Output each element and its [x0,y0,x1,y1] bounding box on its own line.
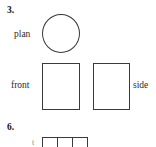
side-view-rectangle-shape [93,63,130,110]
front-view-rectangle-shape [42,63,80,110]
question-3-number: 3. [7,6,14,16]
plan-view-circle-shape [42,14,80,53]
front-view-label: front [11,81,29,91]
question-6-stub-mark: t [32,139,37,146]
grid-cell [58,138,73,147]
plan-view-label: plan [14,30,30,40]
question-6-grid [42,137,88,147]
question-6-number: 6. [7,123,14,133]
side-view-label: side [133,81,148,91]
worksheet-page: 3. plan front side 6. t [0,0,156,147]
grid-cell [73,138,87,147]
grid-cell [43,138,58,147]
